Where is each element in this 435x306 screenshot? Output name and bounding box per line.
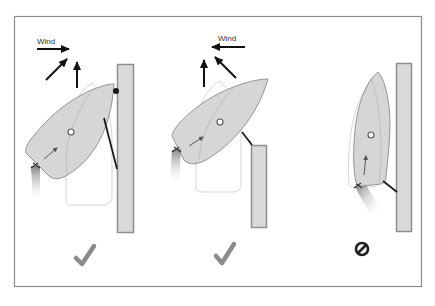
fender-icon (113, 88, 119, 94)
pivot-point-icon (68, 129, 74, 135)
pivot-point-icon (217, 119, 223, 125)
dock (397, 64, 412, 232)
wind-label: Wind (37, 37, 55, 46)
docking-diagram: Wind Wind (0, 0, 435, 306)
dock (252, 146, 267, 228)
dock (118, 65, 134, 233)
pivot-point-icon (368, 132, 374, 138)
wind-label: Wind (218, 34, 236, 43)
